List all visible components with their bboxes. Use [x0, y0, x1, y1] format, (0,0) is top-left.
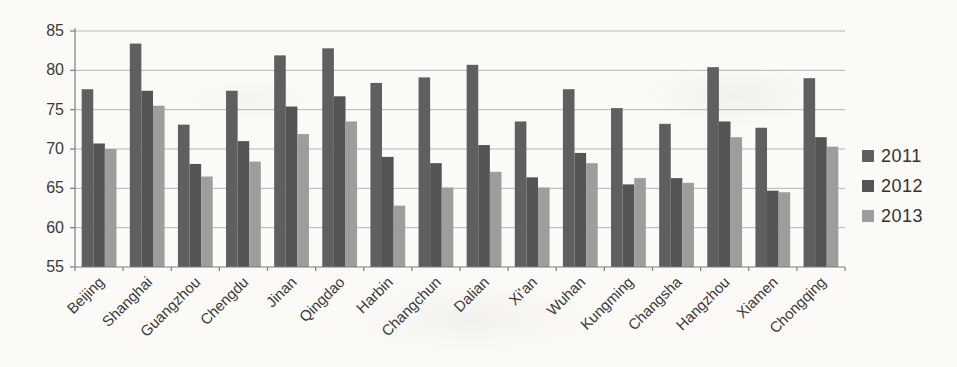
bar-2012-Changsha [671, 178, 683, 267]
legend-label: 2012 [881, 176, 923, 197]
x-axis-label: Xi'an [505, 273, 540, 308]
x-axis-label: Chengdu [196, 273, 251, 328]
bar-2011-Harbin [370, 83, 382, 267]
legend-label: 2011 [881, 146, 922, 167]
bar-2012-Chongqing [815, 137, 827, 267]
y-axis-label: 55 [46, 258, 64, 275]
x-axis-label: Beijing [63, 273, 107, 317]
bar-2011-Xiamen [755, 128, 767, 267]
bar-2012-Dalian [478, 145, 490, 267]
y-axis-label: 80 [46, 61, 64, 78]
bar-2012-Guangzhou [190, 164, 202, 267]
x-axis-label: Wuhan [543, 273, 588, 318]
legend-swatch-2013 [862, 210, 874, 222]
y-axis-label: 85 [46, 22, 64, 39]
legend-item-2012: 2012 [862, 171, 923, 201]
bar-2013-Chongqing [827, 147, 839, 267]
bar-2013-Qingdao [345, 121, 357, 267]
y-axis-label: 70 [46, 140, 64, 157]
x-axis-label: Harbin [353, 273, 396, 316]
bar-2012-Wuhan [575, 153, 587, 267]
x-axis-label: Xiamen [733, 273, 781, 321]
bar-2012-Qingdao [334, 96, 346, 267]
x-axis-label: Qingdao [296, 273, 348, 325]
bar-2013-Xi'an [538, 188, 550, 267]
bar-2013-Wuhan [586, 163, 598, 267]
bar-2013-Kungming [634, 178, 646, 267]
bar-2011-Wuhan [563, 89, 575, 267]
legend-swatch-2012 [862, 180, 874, 192]
bar-2011-Chongqing [804, 78, 816, 267]
bar-2012-Beijing [93, 143, 105, 267]
bar-2011-Beijing [82, 89, 94, 267]
bar-2013-Jinan [297, 134, 309, 267]
bar-2013-Guangzhou [201, 177, 213, 267]
bar-2011-Changchun [419, 77, 431, 267]
legend-item-2011: 2011 [862, 141, 923, 171]
bar-2011-Kungming [611, 108, 623, 267]
bar-2013-Dalian [490, 172, 502, 267]
bar-2011-Chengdu [226, 91, 238, 267]
bar-2012-Jinan [286, 107, 298, 267]
bar-2011-Xi'an [515, 121, 527, 267]
bar-2013-Hangzhou [730, 137, 742, 267]
x-axis-label: Dalian [450, 273, 492, 315]
bar-2012-Chengdu [238, 141, 250, 267]
bar-2013-Harbin [394, 206, 406, 267]
legend-item-2013: 2013 [862, 201, 923, 231]
bar-2012-Changchun [430, 163, 442, 267]
bar-2012-Xi'an [526, 177, 538, 267]
y-axis-label: 65 [46, 179, 64, 196]
bar-2013-Changsha [682, 183, 694, 267]
x-axis-label: Jinan [262, 273, 299, 310]
bar-2012-Xiamen [767, 191, 779, 267]
bar-chart: 55606570758085BeijingShanghaiGuangzhouCh… [0, 0, 957, 367]
bar-2012-Hangzhou [719, 121, 731, 267]
bar-2011-Qingdao [322, 48, 334, 267]
bar-2013-Xiamen [779, 192, 791, 267]
legend-label: 2013 [881, 206, 923, 227]
y-axis-label: 60 [46, 219, 64, 236]
bar-2011-Shanghai [130, 44, 142, 267]
bar-2011-Hangzhou [707, 67, 719, 267]
bar-2013-Chengdu [249, 162, 261, 267]
bar-2011-Changsha [659, 124, 671, 267]
bar-2012-Harbin [382, 157, 394, 267]
bar-2012-Shanghai [141, 91, 153, 267]
bar-2011-Jinan [274, 55, 286, 267]
bar-2011-Guangzhou [178, 125, 190, 267]
legend-swatch-2011 [862, 150, 874, 162]
y-axis-label: 75 [46, 101, 64, 118]
bar-2011-Dalian [467, 65, 479, 267]
scanned-bar-chart-page: 55606570758085BeijingShanghaiGuangzhouCh… [0, 0, 957, 367]
chart-legend: 201120122013 [862, 141, 923, 231]
bar-2013-Beijing [105, 149, 117, 267]
bar-2012-Kungming [623, 184, 635, 267]
bar-2013-Changchun [442, 188, 454, 267]
bar-2013-Shanghai [153, 106, 165, 267]
